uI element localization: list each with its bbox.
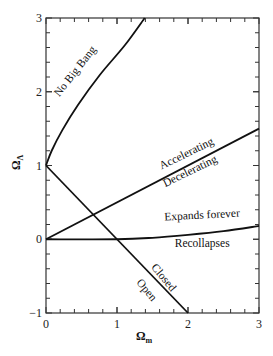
y-tick-label: 2 [36, 85, 42, 99]
x-tick-label: 1 [114, 317, 120, 331]
region-label: No Big Bang [51, 43, 99, 99]
x-axis-title: Ωm [136, 329, 153, 345]
y-tick-label: 1 [36, 159, 42, 173]
y-tick-label: 3 [36, 11, 42, 25]
x-tick-label: 2 [185, 317, 191, 331]
region-label: Expands forever [164, 207, 240, 224]
y-tick-label: 0 [36, 232, 42, 246]
region-labels: No Big BangAcceleratingDeceleratingExpan… [51, 43, 240, 304]
boundary-curve [46, 129, 259, 240]
region-label: Recollapses [175, 237, 230, 250]
y-axis-title: ΩΛ [9, 154, 25, 170]
phase-diagram-chart: 0123−10123 No Big BangAcceleratingDecele… [0, 0, 273, 356]
y-tick-label: −1 [29, 306, 42, 320]
x-tick-label: 3 [256, 317, 262, 331]
x-tick-label: 0 [43, 317, 49, 331]
